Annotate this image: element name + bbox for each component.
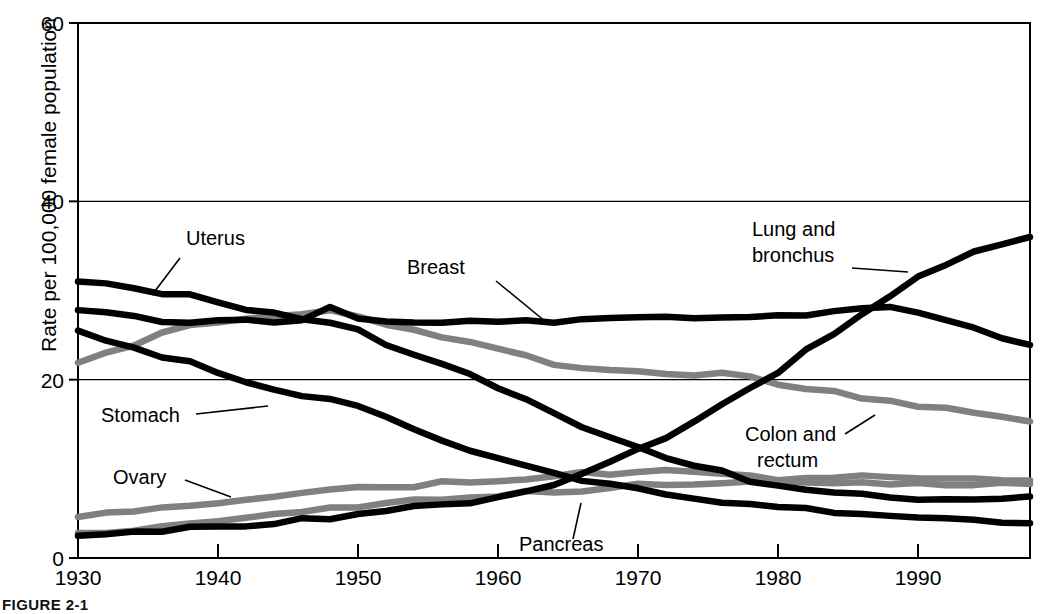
- x-tick-label: 1950: [335, 566, 382, 589]
- cancer-death-rate-line-chart: 0204060 1930194019501960197019801990 Ute…: [0, 0, 1049, 614]
- x-tick-label: 1980: [755, 566, 802, 589]
- y-tick-label: 60: [41, 12, 64, 35]
- series-label-breast: Breast: [407, 256, 465, 278]
- series-label-colon-and-rectum: Colon and: [745, 423, 836, 445]
- leader-line-ovary: [185, 480, 231, 497]
- figure-caption: FIGURE 2-1: [2, 596, 89, 614]
- y-tick-label: 40: [41, 190, 64, 213]
- leader-line-colon-and-rectum: [845, 415, 875, 434]
- series-label-stomach: Stomach: [101, 404, 180, 426]
- y-axis-ticks-group: 0204060: [41, 12, 78, 570]
- x-tick-label: 1960: [475, 566, 522, 589]
- series-line-breast: [78, 307, 1030, 345]
- series-line-colon-and-rectum: [78, 310, 1030, 421]
- x-tick-label: 1990: [895, 566, 942, 589]
- leader-line-breast: [496, 281, 546, 322]
- series-label-lung-and-bronchus-line2: bronchus: [752, 244, 834, 266]
- series-label-uterus: Uterus: [186, 227, 245, 249]
- series-label-colon-and-rectum-line2: rectum: [757, 449, 818, 471]
- x-tick-label: 1970: [615, 566, 662, 589]
- x-axis-ticks-group: 1930194019501960197019801990: [55, 544, 942, 589]
- leader-line-uterus: [152, 258, 180, 295]
- series-label-ovary: Ovary: [113, 466, 166, 488]
- leader-line-stomach: [196, 406, 268, 414]
- figure-container: Rate per 100,000 female population 02040…: [0, 0, 1049, 614]
- series-lines-group: [78, 237, 1030, 536]
- y-tick-label: 20: [41, 369, 64, 392]
- series-label-pancreas: Pancreas: [519, 533, 604, 555]
- series-line-uterus: [78, 282, 1030, 500]
- x-tick-label: 1930: [55, 566, 102, 589]
- leader-line-lung-and-bronchus: [852, 268, 908, 272]
- series-label-lung-and-bronchus: Lung and: [752, 218, 835, 240]
- x-tick-label: 1940: [195, 566, 242, 589]
